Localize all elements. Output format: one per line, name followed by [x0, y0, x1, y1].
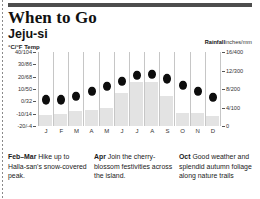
note-month: Oct — [179, 153, 191, 160]
tick-dash-icon — [33, 89, 36, 90]
temp-tick-label: 20/68 — [18, 74, 32, 80]
rainfall-bar — [85, 110, 98, 126]
temperature-dot — [179, 80, 187, 90]
month-column-f-1: F — [54, 52, 69, 126]
temperature-dot — [88, 87, 96, 97]
tick-dash-icon — [33, 114, 36, 115]
header-rule — [8, 3, 252, 7]
chart-plot-area: JFMAMJJASOND — [38, 52, 220, 126]
rainfall-bar — [54, 114, 67, 126]
temperature-dot — [103, 82, 111, 92]
month-column-j-6: J — [130, 52, 145, 126]
climate-chart: 40/10430/8620/6810/500/32-10/14-20/-4 16… — [8, 52, 252, 136]
temp-tick-label: 30/86 — [18, 61, 32, 67]
month-label: A — [145, 128, 159, 134]
seasonal-notes: Feb–Mar Hike up to Halla-san's snow-cove… — [8, 152, 260, 199]
temp-tick-label: -20/-4 — [17, 123, 32, 129]
rain-tick-4: 0 — [222, 123, 254, 129]
tick-dash-icon — [33, 126, 36, 127]
rainfall-bar — [191, 113, 204, 126]
tick-dash-icon — [33, 52, 36, 53]
note-month: Apr — [94, 153, 106, 160]
temp-tick-6: -20/-4 — [8, 123, 38, 129]
month-label: A — [85, 128, 99, 134]
temp-tick-2: 20/68 — [8, 74, 38, 80]
tick-dash-icon — [222, 52, 225, 53]
rain-tick-label: 4/100 — [226, 105, 240, 111]
month-label: N — [191, 128, 205, 134]
rainfall-bar — [130, 82, 143, 126]
temperature-dot — [209, 93, 217, 103]
temp-tick-1: 30/86 — [8, 61, 38, 67]
note-text: Join the cherry-blossom festivities acro… — [94, 153, 172, 179]
month-column-m-4: M — [100, 52, 115, 126]
rain-tick-0: 16/400 — [222, 49, 254, 55]
temp-tick-5: -10/14 — [8, 111, 38, 117]
seasonal-note-1: Apr Join the cherry-blossom festivities … — [94, 152, 174, 181]
month-column-j-0: J — [39, 52, 54, 126]
rain-tick-2: 8/200 — [222, 86, 254, 92]
month-column-m-2: M — [69, 52, 84, 126]
temperature-dot — [194, 87, 202, 97]
note-month: Feb–Mar — [8, 153, 36, 160]
temperature-dot — [72, 91, 80, 101]
rainfall-bar — [160, 96, 173, 126]
rainfall-axis-title-bold: Rainfall — [205, 39, 225, 45]
cut-guide — [2, 0, 3, 199]
tick-dash-icon — [33, 101, 36, 102]
temperature-dot — [163, 74, 171, 84]
month-label: D — [206, 128, 220, 134]
temperature-dot — [118, 77, 126, 87]
tick-dash-icon — [222, 108, 225, 109]
location-subtitle: Jeju-si — [8, 27, 48, 41]
temp-tick-label: 40/104 — [15, 49, 32, 55]
temp-tick-label: -10/14 — [16, 111, 32, 117]
month-label: J — [130, 128, 144, 134]
rain-tick-label: 0 — [226, 123, 229, 129]
month-label: J — [115, 128, 129, 134]
month-column-o-9: O — [176, 52, 191, 126]
month-column-n-10: N — [191, 52, 206, 126]
temperature-dot — [42, 95, 50, 105]
when-to-go-card: When to Go Jeju-si °C/°F Temp Rainfallin… — [8, 0, 260, 199]
rain-tick-label: 8/200 — [226, 86, 240, 92]
temp-tick-label: 10/50 — [18, 86, 32, 92]
rainfall-axis-title-units: inches/mm — [225, 39, 252, 45]
month-column-j-5: J — [115, 52, 130, 126]
temperature-dot — [133, 71, 141, 81]
temp-tick-0: 40/104 — [8, 49, 38, 55]
rainfall-bar — [69, 111, 82, 126]
month-label: M — [69, 128, 83, 134]
month-label: J — [39, 128, 53, 134]
month-label: F — [54, 128, 68, 134]
rain-tick-1: 12/300 — [222, 68, 254, 74]
month-column-s-8: S — [160, 52, 175, 126]
note-text: Good weather and splendid autumn foliage… — [179, 153, 252, 179]
rainfall-bar — [176, 113, 189, 126]
temp-tick-4: 0/32 — [8, 98, 38, 104]
rainfall-axis-title: Rainfallinches/mm — [205, 39, 252, 45]
temp-tick-3: 10/50 — [8, 86, 38, 92]
temp-tick-label: 0/32 — [21, 98, 32, 104]
tick-dash-icon — [222, 126, 225, 127]
rainfall-bar — [100, 108, 113, 127]
temperature-dot — [57, 95, 65, 105]
rainfall-bar — [39, 115, 52, 126]
month-column-d-11: D — [206, 52, 221, 126]
tick-dash-icon — [222, 89, 225, 90]
rain-tick-3: 4/100 — [222, 105, 254, 111]
month-column-a-7: A — [145, 52, 160, 126]
page-title: When to Go — [8, 8, 97, 28]
tick-dash-icon — [33, 77, 36, 78]
month-label: O — [176, 128, 190, 134]
month-label: M — [100, 128, 114, 134]
rainfall-bar — [145, 82, 158, 126]
month-column-a-3: A — [85, 52, 100, 126]
temperature-dot — [148, 69, 156, 79]
tick-dash-icon — [222, 71, 225, 72]
tick-dash-icon — [33, 64, 36, 65]
month-label: S — [160, 128, 174, 134]
seasonal-note-0: Feb–Mar Hike up to Halla-san's snow-cove… — [8, 152, 88, 181]
rain-tick-label: 16/400 — [226, 49, 243, 55]
rainfall-bar — [206, 116, 219, 126]
